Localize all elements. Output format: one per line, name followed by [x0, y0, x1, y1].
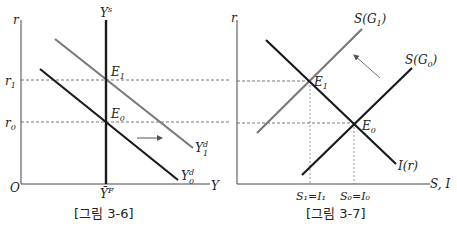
- curve-y0-demand: [40, 69, 178, 180]
- label-s-g0: S(G0): [405, 53, 438, 69]
- diagram-canvas: r Y O r1 r0 Ys Yd1 Yd0 E1 E0 ȲF [그림 3-6]…: [0, 0, 457, 232]
- tick-y-full-employment: ȲF: [100, 186, 114, 201]
- point-e0: E0: [110, 107, 125, 123]
- tick-r0: r0: [5, 116, 16, 132]
- label-y0-demand: Yd0: [181, 168, 194, 186]
- caption-3-7: [그림 3-7]: [306, 206, 366, 221]
- point-e1: E1: [110, 65, 125, 81]
- x-axis-label: Y: [211, 179, 220, 193]
- tick-r1: r1: [5, 74, 16, 90]
- caption-3-6: [그림 3-6]: [74, 206, 134, 221]
- label-y-supply: Ys: [100, 5, 112, 20]
- tick-s0-i0: S₀=I₀: [340, 190, 371, 203]
- figure-3-7: r S, I S(G1) S(G0) I(r) E1 E0 S₁=I₁ S₀=I…: [231, 11, 450, 221]
- y-axis-label: r: [13, 13, 20, 27]
- point-e0: E0: [361, 119, 376, 135]
- curve-y1-demand: [55, 39, 193, 148]
- x-axis-label: S, I: [430, 177, 450, 191]
- label-investment: I(r): [397, 159, 418, 173]
- figure-3-6: r Y O r1 r0 Ys Yd1 Yd0 E1 E0 ȲF [그림 3-6]: [5, 5, 230, 221]
- shift-arrow-up-left: [354, 55, 380, 78]
- origin-label: O: [10, 181, 20, 195]
- label-s-g1: S(G1): [354, 12, 387, 28]
- label-y1-demand: Yd1: [195, 140, 208, 158]
- point-e1: E1: [313, 75, 328, 91]
- tick-s1-i1: S₁=I₁: [296, 190, 326, 203]
